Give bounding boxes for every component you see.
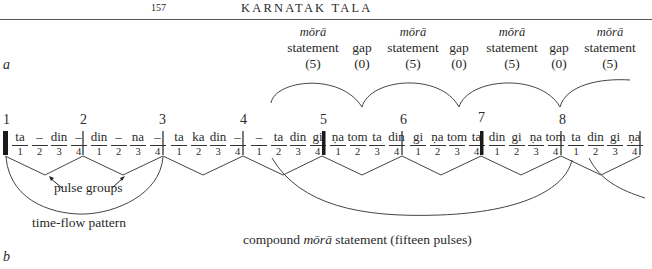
heavy-bar-line-5 <box>322 131 326 155</box>
mora-arc-3 <box>459 83 560 107</box>
heavy-bar-line-1 <box>3 131 8 155</box>
compound-mora-arc <box>272 158 572 215</box>
diagram-lines <box>0 0 652 269</box>
time-flow-zigzag <box>5 156 640 175</box>
heavy-bar-line-7 <box>480 131 484 155</box>
mora-arc-4 <box>560 80 630 107</box>
next-compound-arc <box>589 158 645 198</box>
mora-arc-2 <box>362 83 459 107</box>
mora-arc-1 <box>271 83 362 107</box>
pulse-groups-arc <box>6 157 163 214</box>
